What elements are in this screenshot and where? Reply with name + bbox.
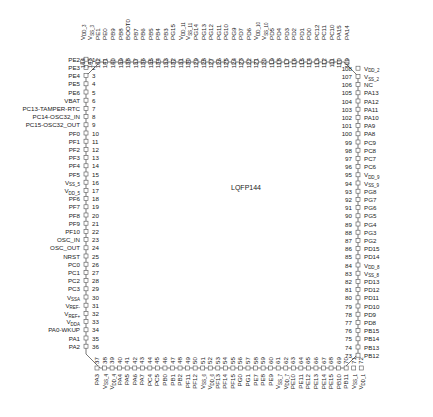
pin-name: PA12: [364, 98, 379, 105]
pin-name: PD11: [364, 294, 380, 301]
pin-number: 104: [342, 98, 353, 105]
pin-number: 99: [345, 139, 352, 146]
pin-name: PC12: [313, 24, 320, 40]
pin-number: 21: [92, 220, 99, 227]
pin-77: 77PD8: [345, 319, 376, 326]
pin-pad: [246, 366, 250, 370]
pin-number: 88: [345, 229, 352, 236]
pin-name: PD9: [364, 311, 377, 318]
pin-name: PA4: [116, 373, 123, 385]
pin-number: 25: [92, 253, 99, 260]
pin-name: PA13: [364, 89, 379, 96]
pin-name: PC2: [68, 277, 81, 284]
pin-name: PE9: [267, 373, 274, 385]
pin-name: PF5: [69, 171, 81, 178]
pin-number: 51: [199, 357, 206, 364]
pin-18: 18PF6: [69, 195, 100, 202]
pin-number: 57: [244, 357, 251, 364]
pin-name: PD6: [245, 27, 252, 40]
pin-pad: [352, 366, 356, 370]
pin-number: 50: [191, 357, 198, 364]
pin-19: 19PF7: [69, 203, 100, 210]
pin-number: 19: [92, 203, 99, 210]
pin-name: PC15-OSC32_OUT: [26, 121, 81, 128]
pin-pad: [238, 366, 242, 370]
pin-number: 125: [222, 57, 229, 68]
pin-name: PC13-TAMPER-RTC: [22, 105, 80, 112]
pin-pad: [356, 296, 360, 300]
pin-pad: [356, 337, 360, 341]
pin-78: 78PD9: [345, 311, 376, 318]
pin-number: 91: [345, 204, 352, 211]
pin-103: 103PA11: [342, 106, 379, 113]
pin-number: 109: [343, 57, 350, 68]
pin-110: 110PA15: [335, 25, 342, 68]
pin-number: 101: [342, 122, 353, 129]
pin-23: 23OSC_IN: [57, 236, 99, 243]
pin-name: PC11: [320, 24, 327, 40]
pin-name: PD4: [275, 27, 282, 40]
pin-number: 20: [92, 212, 99, 219]
pin-number: 81: [345, 286, 352, 293]
pin-number: 7: [92, 105, 96, 112]
pin-name: PF3: [69, 154, 81, 161]
pin-number: 58: [252, 357, 259, 364]
pin-name: PF8: [69, 212, 81, 219]
pin-name: PA14: [343, 25, 350, 40]
lqfp144-pinout-diagram: LQFP144 1PE22PE33PE44PE55PE66VBAT7PC13-T…: [0, 0, 433, 417]
pin-56: 56PG0: [236, 357, 243, 387]
pin-name: PE5: [68, 80, 80, 87]
pin-79: 79PD10: [345, 303, 380, 310]
pin-number: 8: [92, 113, 96, 120]
pin-pad: [110, 366, 114, 370]
pin-number: 56: [236, 357, 243, 364]
pin-34: 34PA0-WKUP: [48, 326, 99, 333]
pin-50: 50PF12: [191, 357, 198, 389]
pin-102: 102PA10: [342, 114, 380, 121]
pin-number: 76: [345, 327, 352, 334]
pin-21: 21PF9: [69, 220, 100, 227]
pin-number: 103: [342, 106, 353, 113]
pin-name: PC1: [68, 269, 81, 276]
pin-name: PA5: [123, 373, 130, 385]
pin-pad: [261, 366, 265, 370]
pin-pad: [231, 366, 235, 370]
pin-12: 12PF2: [69, 146, 100, 153]
pin-name: PF1: [69, 138, 81, 145]
pin-pad: [356, 99, 360, 103]
pin-88: 88PG3: [345, 229, 377, 236]
pin-number: 13: [92, 154, 99, 161]
pin-pad: [306, 366, 310, 370]
pin-number: 133: [162, 57, 169, 68]
pin-number: 63: [289, 357, 296, 364]
pin-pad: [84, 287, 88, 291]
pin-104: 104PA12: [342, 98, 380, 105]
pin-pad: [276, 366, 280, 370]
pin-number: 74: [345, 344, 352, 351]
pin-number: 141: [101, 57, 108, 68]
pin-pad: [344, 366, 348, 370]
pin-pad: [84, 106, 88, 110]
pin-111: 111PC10: [328, 24, 335, 67]
pin-pad: [356, 247, 360, 251]
pin-pad: [84, 279, 88, 283]
pin-name: PA11: [364, 106, 379, 113]
pin-29: 29PC3: [68, 285, 99, 292]
pin-pad: [103, 366, 107, 370]
pin-3: 3PE4: [68, 72, 96, 79]
pin-pad: [356, 230, 360, 234]
pin-number: 37: [93, 357, 100, 364]
pin-7: 7PC13-TAMPER-RTC: [22, 105, 96, 112]
pin-number: 9: [92, 121, 96, 128]
pin-name: PE14: [320, 373, 327, 389]
pin-26: 26PC0: [68, 261, 99, 268]
pin-pad: [356, 320, 360, 324]
pin-pad: [284, 366, 288, 370]
pin-number: 135: [147, 57, 154, 68]
pin-47: 47PB1: [169, 357, 176, 386]
pin-pad: [84, 246, 88, 250]
pin-37: 37PA3: [93, 357, 100, 386]
pin-number: 12: [92, 146, 99, 153]
pin-82: 82PD13: [345, 278, 380, 285]
pin-name: PB8: [117, 28, 124, 40]
